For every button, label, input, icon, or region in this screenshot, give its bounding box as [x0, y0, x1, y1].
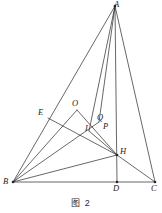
point-label-O: O [72, 99, 78, 108]
point-label-A: A [114, 0, 119, 9]
segment-B-to-O [13, 110, 77, 182]
segment-I-to-H [89, 131, 117, 155]
cevian-A-to-Q [99, 6, 115, 122]
point-label-E: E [38, 108, 43, 117]
figure-caption: 图 2 [0, 196, 162, 209]
vertex-dot-b [12, 181, 15, 184]
vertex-dot-layer [12, 5, 157, 184]
point-label-H: H [120, 147, 126, 156]
point-label-I: I [85, 124, 88, 133]
point-label-B: B [3, 177, 8, 186]
point-label-D: D [113, 184, 119, 193]
segment-layer [13, 6, 155, 182]
side-AB [13, 6, 115, 182]
segment-B-to-H [13, 155, 117, 182]
geometry-canvas [0, 0, 162, 213]
vertex-dot-h [116, 154, 119, 157]
segment-H-to-C [117, 155, 155, 182]
geometry-figure: A E O Q P I H B D C 图 2 [0, 0, 162, 213]
point-label-C: C [151, 184, 157, 193]
point-label-P: P [103, 122, 108, 131]
